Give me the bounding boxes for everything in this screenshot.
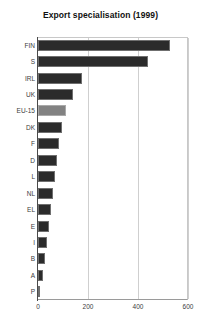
bar-row xyxy=(38,284,188,300)
bar-a[interactable] xyxy=(38,270,43,281)
bar-row xyxy=(38,152,188,168)
bar-i[interactable] xyxy=(38,237,47,248)
y-tick-label-uk: UK xyxy=(0,91,35,98)
bar-row xyxy=(38,234,188,250)
chart-container: Export specialisation (1999) FINSIRLUKEU… xyxy=(0,0,201,331)
bar-b[interactable] xyxy=(38,253,45,264)
y-tick-label-fin: FIN xyxy=(0,42,35,49)
bar-row xyxy=(38,185,188,201)
y-tick-label-p: P xyxy=(0,288,35,295)
bar-f[interactable] xyxy=(38,138,59,149)
bar-row xyxy=(38,119,188,135)
chart-title: Export specialisation (1999) xyxy=(0,10,201,20)
bar-nl[interactable] xyxy=(38,188,53,199)
y-tick-label-a: A xyxy=(0,272,35,279)
bar-eu-15[interactable] xyxy=(38,105,66,116)
bar-row xyxy=(38,37,188,53)
bar-row xyxy=(38,201,188,217)
bar-dk[interactable] xyxy=(38,122,62,133)
bar-row xyxy=(38,251,188,267)
bar-p[interactable] xyxy=(38,286,40,297)
x-tick-label-400: 400 xyxy=(133,303,144,310)
bar-row xyxy=(38,103,188,119)
y-tick-label-nl: NL xyxy=(0,190,35,197)
x-tick-label-600: 600 xyxy=(183,303,194,310)
bar-row xyxy=(38,86,188,102)
bars-layer xyxy=(38,37,188,300)
x-tick-label-0: 0 xyxy=(36,303,40,310)
bar-fin[interactable] xyxy=(38,40,170,51)
y-tick-label-l: L xyxy=(0,173,35,180)
bar-irl[interactable] xyxy=(38,73,82,84)
gridline xyxy=(188,38,189,299)
bar-d[interactable] xyxy=(38,155,57,166)
bar-row xyxy=(38,169,188,185)
y-tick-label-irl: IRL xyxy=(0,75,35,82)
bar-row xyxy=(38,218,188,234)
y-tick-label-b: B xyxy=(0,255,35,262)
bar-el[interactable] xyxy=(38,204,51,215)
y-tick-label-i: I xyxy=(0,239,35,246)
bar-uk[interactable] xyxy=(38,89,73,100)
y-tick-label-el: EL xyxy=(0,206,35,213)
y-tick-label-f: F xyxy=(0,140,35,147)
y-tick-label-e: E xyxy=(0,223,35,230)
x-tick-label-200: 200 xyxy=(83,303,94,310)
bar-row xyxy=(38,53,188,69)
x-axis-tick-labels: 0200400600 xyxy=(0,303,201,315)
y-axis-tick-labels: FINSIRLUKEU-15DKFDLNLELEIBAP xyxy=(0,37,35,300)
bar-row xyxy=(38,267,188,283)
bar-l[interactable] xyxy=(38,171,55,182)
y-tick-label-d: D xyxy=(0,157,35,164)
bar-s[interactable] xyxy=(38,56,148,67)
bar-e[interactable] xyxy=(38,221,49,232)
y-tick-label-eu-15: EU-15 xyxy=(0,107,35,114)
y-tick-label-s: S xyxy=(0,58,35,65)
bar-row xyxy=(38,136,188,152)
y-tick-label-dk: DK xyxy=(0,124,35,131)
bar-row xyxy=(38,70,188,86)
